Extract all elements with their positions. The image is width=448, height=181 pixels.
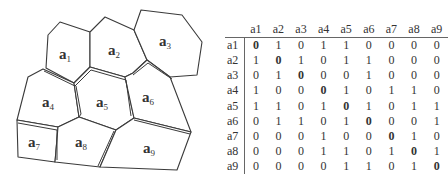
row-header: a6 [225,114,245,129]
matrix-cell: 1 [358,159,381,174]
matrix-cell: 1 [312,144,335,159]
matrix-cell: 0 [358,38,381,54]
region-adjacency-map: a1 a2 a3 a4 a5 a6 a7 a8 a9 [0,0,215,181]
matrix-cell: 1 [380,83,403,98]
column-header: a7 [380,22,403,38]
row-header: a9 [225,159,245,174]
matrix-cell: 0 [290,38,313,54]
matrix-cell: 0 [267,144,290,159]
matrix-cell: 1 [267,114,290,129]
row-header: a5 [225,98,245,113]
matrix-cell: 0 [267,159,290,174]
matrix-cell: 1 [358,98,381,113]
matrix-cell: 0 [380,38,403,54]
matrix-cell: 0 [267,129,290,144]
matrix-cell: 1 [245,53,268,68]
column-header: a5 [335,22,358,38]
matrix-cell: 0 [245,129,268,144]
matrix-body: a1010110000a2101011000a3010001000a410001… [225,38,448,174]
matrix-cell: 0 [380,68,403,83]
matrix-cell: 1 [335,53,358,68]
row-header: a3 [225,68,245,83]
matrix-header-row: a1 a2 a3 a4 a5 a6 a7 a8 a9 [225,22,448,38]
matrix-cell: 0 [245,114,268,129]
matrix-cell-diagonal: 0 [290,68,313,83]
matrix-cell-diagonal: 0 [245,38,268,54]
row-header: a4 [225,83,245,98]
matrix-cell: 0 [312,114,335,129]
matrix-cell: 0 [380,53,403,68]
matrix-cell: 0 [425,129,448,144]
matrix-cell: 0 [267,83,290,98]
matrix-cell: 1 [425,114,448,129]
matrix-cell: 0 [403,114,426,129]
matrix-cell: 1 [245,98,268,113]
matrix-cell: 1 [312,38,335,54]
column-header: a9 [425,22,448,38]
matrix-cell: 1 [358,53,381,68]
matrix-cell: 0 [290,83,313,98]
matrix-cell: 0 [290,144,313,159]
matrix-cell-diagonal: 0 [335,98,358,113]
matrix-cell: 0 [358,144,381,159]
matrix-cell: 1 [335,144,358,159]
matrix-cell: 0 [380,98,403,113]
matrix-cell-diagonal: 0 [425,159,448,174]
matrix-cell: 0 [245,144,268,159]
matrix-cell: 1 [403,83,426,98]
matrix-cell: 1 [267,98,290,113]
matrix-row: a4100010110 [225,83,448,98]
matrix-cell: 0 [403,68,426,83]
matrix-cell: 0 [380,159,403,174]
row-header: a8 [225,144,245,159]
matrix-cell-diagonal: 0 [312,83,335,98]
matrix-cell: 1 [403,98,426,113]
matrix-cell: 0 [380,114,403,129]
matrix-cell: 0 [245,68,268,83]
matrix-cell: 1 [380,144,403,159]
matrix-row: a5110101011 [225,98,448,113]
matrix-corner [225,22,245,38]
matrix-row: a6011010001 [225,114,448,129]
matrix-cell: 1 [335,159,358,174]
matrix-cell: 0 [290,129,313,144]
matrix-cell: 1 [335,83,358,98]
matrix-row: a2101011000 [225,53,448,68]
matrix-cell: 1 [358,68,381,83]
matrix-cell: 1 [267,38,290,54]
matrix-cell: 1 [312,98,335,113]
matrix-cell-diagonal: 0 [403,144,426,159]
matrix-cell: 1 [290,53,313,68]
column-header: a8 [403,22,426,38]
row-header: a1 [225,38,245,54]
matrix-cell: 1 [425,98,448,113]
matrix-cell: 0 [403,38,426,54]
matrix-cell: 1 [403,159,426,174]
matrix-cell: 1 [245,83,268,98]
column-header: a4 [312,22,335,38]
matrix-cell: 0 [425,83,448,98]
matrix-row: a1010110000 [225,38,448,54]
column-header: a2 [267,22,290,38]
matrix-cell: 0 [312,53,335,68]
matrix-cell: 1 [290,114,313,129]
matrix-row: a9000011010 [225,159,448,174]
matrix-cell: 1 [425,144,448,159]
row-header: a2 [225,53,245,68]
matrix-cell-diagonal: 0 [358,114,381,129]
matrix-cell: 0 [290,159,313,174]
row-header: a7 [225,129,245,144]
adjacency-matrix: a1 a2 a3 a4 a5 a6 a7 a8 a9 a1010110000a2… [225,22,448,174]
matrix-cell: 0 [425,68,448,83]
matrix-cell: 1 [312,129,335,144]
matrix-row: a8000110101 [225,144,448,159]
matrix-cell: 0 [358,129,381,144]
matrix-cell: 0 [335,68,358,83]
matrix-cell: 0 [312,159,335,174]
matrix-cell: 0 [403,53,426,68]
column-header: a6 [358,22,381,38]
matrix-cell: 1 [335,38,358,54]
column-header: a3 [290,22,313,38]
matrix-cell: 0 [425,53,448,68]
matrix-cell: 0 [335,129,358,144]
